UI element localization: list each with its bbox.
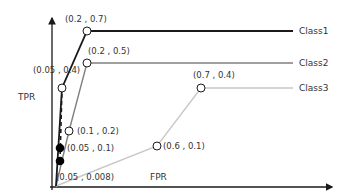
point-label: (0.1 , 0.2) <box>77 126 119 136</box>
legend-label-class2: Class2 <box>299 58 328 68</box>
point-label: (0.2 , 0.7) <box>65 14 107 24</box>
y-axis-label: TPR <box>17 92 35 102</box>
data-point <box>153 142 161 150</box>
point-label: (0.2 , 0.5) <box>88 46 130 56</box>
series-line-class2 <box>56 63 293 186</box>
data-point <box>83 27 91 35</box>
roc-chart: TPR FPR Class3Class2Class1(0.05 , 0.4)(0… <box>0 0 337 191</box>
point-label: (0.05 , 0.1) <box>67 143 114 153</box>
legend-label-class1: Class1 <box>299 26 328 36</box>
legend-label-class3: Class3 <box>299 83 328 93</box>
highlighted-point <box>56 144 65 153</box>
data-point <box>58 84 66 92</box>
point-label: (0.05 , 0.4) <box>33 65 80 75</box>
data-point <box>197 84 205 92</box>
x-axis-label: FPR <box>150 172 167 182</box>
data-point <box>83 59 91 67</box>
point-label: (0.6 , 0.1) <box>163 141 205 151</box>
point-label: (0.7 , 0.4) <box>193 70 235 80</box>
highlighted-point <box>56 157 65 166</box>
point-label: (0.05 , 0.008) <box>56 172 114 182</box>
data-point <box>65 127 73 135</box>
